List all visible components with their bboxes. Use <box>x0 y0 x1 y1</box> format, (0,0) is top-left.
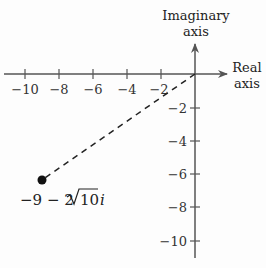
real-axis-label-line1: Real <box>232 60 261 75</box>
imag-tick-label: −2 <box>168 101 187 116</box>
point-label-radicand: 10 <box>80 191 99 209</box>
point-label-suffix: i <box>100 191 105 209</box>
complex-point-label: −9 − 2 <box>20 191 74 209</box>
complex-point-marker <box>38 176 47 185</box>
imag-tick-label: −8 <box>168 200 187 215</box>
complex-plane-svg: −10 −8 −6 −4 −2 −2 −4 −6 −8 −10 Imaginar… <box>0 0 266 268</box>
point-label-main: −9 − 2 <box>20 191 74 209</box>
imag-tick-label: −10 <box>160 234 187 249</box>
imaginary-axis-label-line2: axis <box>183 24 209 39</box>
real-tick-label: −8 <box>49 82 68 97</box>
imaginary-axis-label-line1: Imaginary <box>162 8 230 23</box>
complex-plane-diagram: −10 −8 −6 −4 −2 −2 −4 −6 −8 −10 Imaginar… <box>0 0 266 268</box>
imag-tick-label: −6 <box>168 167 187 182</box>
real-tick-label: −4 <box>117 82 136 97</box>
real-axis-label-line2: axis <box>234 76 260 91</box>
real-tick-label: −6 <box>83 82 102 97</box>
imag-tick-label: −4 <box>168 134 187 149</box>
real-tick-label: −10 <box>11 82 38 97</box>
